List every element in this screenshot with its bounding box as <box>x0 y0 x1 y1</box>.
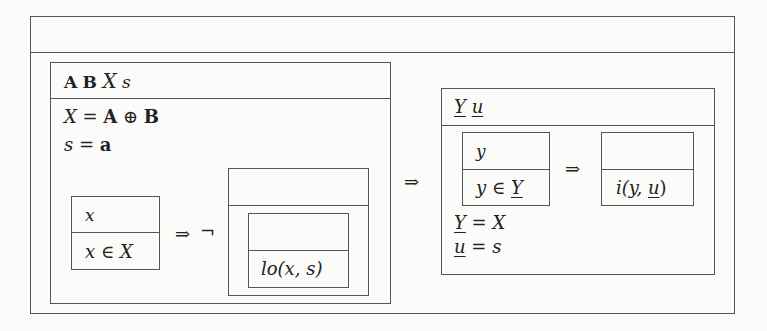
quant-y-divider <box>463 169 549 170</box>
oplus-symbol: ⊕ <box>117 106 144 127</box>
predicate-u-eq: u = s <box>454 237 501 257</box>
lo-inner-box: lo(x, s) <box>248 213 349 288</box>
pred-var: y <box>476 177 486 198</box>
pred-rhs: X <box>492 212 505 233</box>
decl-Y: Y <box>454 96 466 117</box>
element-of-symbol: ∈ <box>95 241 120 262</box>
negated-header-divider <box>229 205 368 206</box>
pred-set: X <box>120 241 133 262</box>
implies-symbol-main: ⇒ <box>404 172 419 192</box>
pred-lhs: Y <box>454 212 466 233</box>
left-declaration: A B X s <box>64 71 131 92</box>
quant-y-pred: y ∈ Y <box>476 178 523 198</box>
lo-inner-divider <box>249 250 348 251</box>
i-pred-suffix: ) <box>660 177 667 198</box>
decl-u: u <box>472 96 484 117</box>
pred-lhs: X <box>64 106 77 127</box>
pred-op: = <box>77 106 104 127</box>
pred-var: x <box>85 241 95 262</box>
element-of-symbol: ∈ <box>486 177 511 198</box>
pred-op: = <box>466 212 493 233</box>
negation-symbol: ¬ <box>200 222 215 242</box>
predicate-x-eq: X = A ⊕ B <box>64 107 159 127</box>
pred-set: Y <box>511 177 523 198</box>
result-divider <box>602 169 693 170</box>
quantifier-box-y: y y ∈ Y <box>462 132 550 206</box>
decl-X: X <box>102 69 116 93</box>
right-declaration: Y u <box>454 97 483 117</box>
implies-symbol-right: ⇒ <box>565 159 580 179</box>
result-box: i(y, u) <box>601 132 694 206</box>
pred-rhs: a <box>100 134 112 155</box>
right-header-divider <box>442 125 714 126</box>
quantifier-box-x: x x ∈ X <box>71 196 160 270</box>
pred-lhs: u <box>454 236 466 257</box>
pred-op: = <box>466 236 493 257</box>
i-pred-prefix: i(y, <box>616 177 648 198</box>
lo-predicate: lo(x, s) <box>261 259 322 279</box>
pred-op: = <box>73 134 100 155</box>
predicate-s-eq: s = a <box>64 135 111 155</box>
pred-rhs-a: A <box>103 106 117 127</box>
outer-header-divider <box>31 52 734 53</box>
quant-y-decl: y <box>476 141 486 161</box>
quant-x-decl: x <box>85 205 95 225</box>
pred-rhs-b: B <box>144 106 159 127</box>
quant-x-pred: x ∈ X <box>85 242 133 262</box>
decl-A: A <box>64 72 77 92</box>
pred-rhs: s <box>492 236 501 257</box>
left-header-divider <box>51 98 390 99</box>
i-pred-u: u <box>648 177 660 198</box>
decl-s: s <box>122 72 131 92</box>
decl-B: B <box>83 72 97 92</box>
implies-symbol-left: ⇒ <box>175 224 190 244</box>
predicate-Y-eq: Y = X <box>454 213 505 233</box>
quant-x-divider <box>72 232 159 233</box>
i-predicate: i(y, u) <box>616 178 667 198</box>
pred-lhs: s <box>64 134 73 155</box>
